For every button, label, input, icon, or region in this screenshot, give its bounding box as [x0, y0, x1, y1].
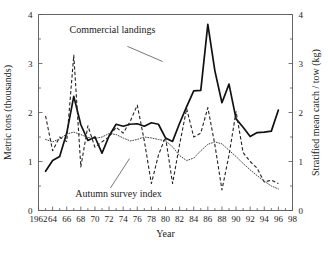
x-axis-tick-label: 96: [274, 214, 284, 224]
y-axis-left-title: Metric tons (thousands): [2, 65, 14, 160]
y-axis-right-tick-label: 1: [299, 157, 304, 167]
y-axis-right-title: Stratified mean catch / tow (kg): [310, 49, 322, 176]
x-axis-tick-label: 84: [189, 214, 199, 224]
x-axis-tick-label: 98: [288, 214, 298, 224]
x-axis-tick-label: 94: [260, 214, 270, 224]
autumn-survey-index-annotation-label: Autumn survey index: [75, 188, 162, 199]
y-axis-left-tick-label: 0: [28, 206, 33, 216]
x-axis-tick-label: 64: [48, 214, 58, 224]
x-axis-tick-label: 72: [105, 214, 114, 224]
x-axis-tick-label: 68: [76, 214, 86, 224]
annotations-group: Commercial landingsAutumn survey index: [70, 24, 163, 199]
commercial-landings-annotation-label: Commercial landings: [70, 24, 156, 35]
chart-canvas: 1962646668707274767880828486889092949698…: [0, 0, 328, 253]
commercial-landings-annotation-leader-line: [127, 46, 162, 61]
x-axis-tick-label: 66: [62, 214, 72, 224]
y-axis-left-tick-label: 4: [28, 10, 33, 20]
y-axis-left-tick-label: 1: [28, 157, 33, 167]
x-axis-tick-label: 80: [161, 214, 171, 224]
x-axis-tick-label: 82: [175, 214, 184, 224]
series-line-solid: [46, 24, 279, 171]
y-axis-left-tick-label: 3: [28, 59, 33, 69]
y-axis-left-tick-label: 2: [28, 108, 33, 118]
x-axis-tick-label: 76: [133, 214, 143, 224]
autumn-survey-index-annotation-leader-line: [110, 159, 129, 188]
x-axis-tick-label: 86: [203, 214, 213, 224]
data-series-group: [46, 24, 279, 190]
x-axis-tick-label: 90: [232, 214, 242, 224]
x-axis-title: Year: [156, 228, 175, 239]
y-axis-right-tick-label: 4: [299, 10, 304, 20]
y-axis-right-tick-label: 2: [299, 108, 304, 118]
x-axis-tick-label: 92: [246, 214, 255, 224]
chart-figure: 1962646668707274767880828486889092949698…: [0, 0, 328, 253]
x-axis-tick-label: 70: [90, 214, 100, 224]
y-axis-right-tick-label: 3: [299, 59, 304, 69]
x-axis-tick-label: 78: [147, 214, 157, 224]
x-axis-tick-label: 88: [217, 214, 227, 224]
series-line-dotted: [46, 132, 279, 189]
x-axis-tick-label: 74: [119, 214, 129, 224]
y-axis-right-tick-label: 0: [299, 206, 304, 216]
